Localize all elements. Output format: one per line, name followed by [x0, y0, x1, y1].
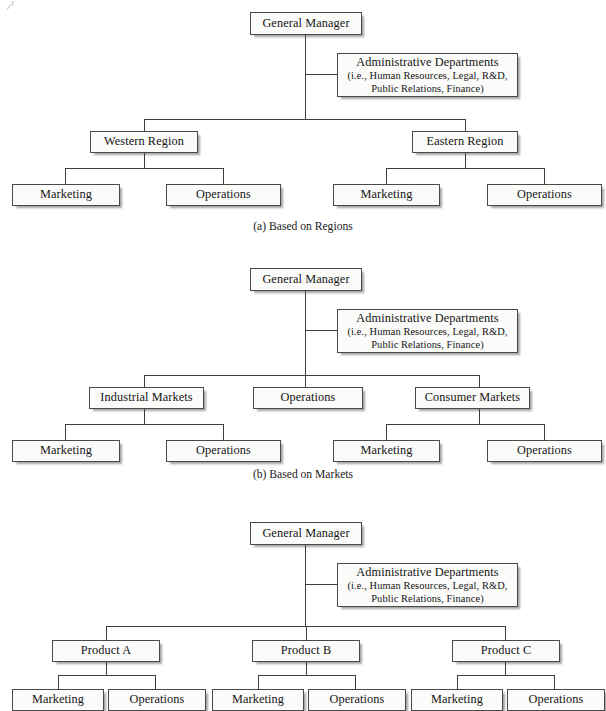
connector-product-b-operations: [355, 675, 356, 689]
node-operations-division[interactable]: Operations: [253, 387, 363, 409]
node-general-manager[interactable]: General Manager: [250, 12, 362, 35]
connector-product-a-marketing: [58, 675, 59, 689]
org-chart-markets: General Manager Administrative Departmen…: [0, 256, 606, 496]
node-consumer-markets[interactable]: Consumer Markets: [415, 387, 530, 409]
connector-root-trunk: [305, 35, 306, 119]
connector-product-b-marketing: [258, 675, 259, 689]
node-product-b[interactable]: Product B: [252, 640, 360, 662]
node-western-operations[interactable]: Operations: [166, 184, 281, 206]
node-consumer-marketing[interactable]: Marketing: [333, 440, 440, 462]
connector-consumer-bus: [386, 424, 545, 425]
node-eastern-region[interactable]: Eastern Region: [412, 131, 518, 153]
connector-product-a-operations: [155, 675, 156, 689]
connector-eastern-drop: [465, 153, 466, 168]
node-product-b-operations[interactable]: Operations: [308, 689, 406, 711]
connector-division-bus: [144, 119, 466, 120]
node-administrative-departments-b[interactable]: Administrative Departments (i.e., Human …: [337, 309, 518, 353]
connector-staff-stub-c: [305, 584, 337, 585]
connector-to-product-a: [106, 626, 107, 640]
node-western-marketing[interactable]: Marketing: [12, 184, 120, 206]
connector-industrial-bus: [65, 424, 224, 425]
node-product-a[interactable]: Product A: [52, 640, 160, 662]
node-general-manager-b[interactable]: General Manager: [250, 268, 362, 291]
connector-western-drop: [144, 153, 145, 168]
connector-consumer-operations: [544, 424, 545, 440]
connector-western-marketing: [65, 168, 66, 184]
connector-consumer-drop: [479, 409, 480, 424]
connector-to-industrial-markets: [144, 375, 145, 387]
org-chart-regions: General Manager Administrative Departmen…: [0, 0, 606, 246]
node-eastern-operations[interactable]: Operations: [487, 184, 602, 206]
node-administrative-departments-c[interactable]: Administrative Departments (i.e., Human …: [337, 563, 518, 607]
connector-eastern-operations: [544, 168, 545, 184]
connector-consumer-marketing: [386, 424, 387, 440]
node-industrial-marketing[interactable]: Marketing: [12, 440, 120, 462]
node-product-a-operations[interactable]: Operations: [108, 689, 206, 711]
admin-line-2: (i.e., Human Resources, Legal, R&D,: [348, 70, 508, 83]
org-chart-products: General Manager Administrative Departmen…: [0, 510, 606, 708]
node-administrative-departments[interactable]: Administrative Departments (i.e., Human …: [337, 53, 518, 97]
caption-chart-a: (a) Based on Regions: [0, 220, 606, 233]
connector-root-trunk-c: [305, 545, 306, 626]
admin-line-3: Public Relations, Finance): [371, 83, 484, 96]
node-eastern-marketing[interactable]: Marketing: [333, 184, 440, 206]
connector-industrial-drop: [144, 409, 145, 424]
connector-to-product-b: [306, 626, 307, 640]
connector-product-c-bus: [457, 675, 555, 676]
admin-line-2-c: (i.e., Human Resources, Legal, R&D,: [348, 580, 508, 593]
node-product-c-operations[interactable]: Operations: [507, 689, 605, 711]
node-industrial-operations[interactable]: Operations: [166, 440, 281, 462]
admin-line-2-b: (i.e., Human Resources, Legal, R&D,: [348, 326, 508, 339]
admin-title: Administrative Departments: [356, 55, 498, 70]
admin-line-3-c: Public Relations, Finance): [371, 593, 484, 606]
node-industrial-markets[interactable]: Industrial Markets: [89, 387, 204, 409]
connector-product-b-drop: [306, 662, 307, 675]
admin-title-b: Administrative Departments: [356, 311, 498, 326]
connector-division-bus-b: [144, 375, 480, 376]
admin-title-c: Administrative Departments: [356, 565, 498, 580]
connector-eastern-marketing: [386, 168, 387, 184]
connector-product-a-drop: [106, 662, 107, 675]
node-product-a-marketing[interactable]: Marketing: [12, 689, 104, 711]
node-consumer-operations[interactable]: Operations: [487, 440, 602, 462]
connector-staff-stub: [305, 74, 337, 75]
connector-western-operations: [223, 168, 224, 184]
connector-to-operations-div: [305, 375, 306, 387]
connector-to-eastern-region: [465, 119, 466, 131]
connector-eastern-bus: [386, 168, 545, 169]
node-product-c[interactable]: Product C: [452, 640, 560, 662]
connector-to-western-region: [144, 119, 145, 131]
connector-product-c-marketing: [457, 675, 458, 689]
node-product-b-marketing[interactable]: Marketing: [212, 689, 304, 711]
connector-product-c-drop: [505, 662, 506, 675]
connector-product-c-operations: [554, 675, 555, 689]
connector-root-trunk-b: [305, 291, 306, 375]
connector-industrial-marketing: [65, 424, 66, 440]
node-western-region[interactable]: Western Region: [90, 131, 198, 153]
node-product-c-marketing[interactable]: Marketing: [411, 689, 503, 711]
connector-to-consumer-markets: [479, 375, 480, 387]
node-general-manager-c[interactable]: General Manager: [250, 522, 362, 545]
caption-chart-b: (b) Based on Markets: [0, 468, 606, 481]
connector-product-b-bus: [258, 675, 356, 676]
admin-line-3-b: Public Relations, Finance): [371, 339, 484, 352]
connector-western-bus: [65, 168, 224, 169]
connector-to-product-c: [505, 626, 506, 640]
connector-industrial-operations: [223, 424, 224, 440]
connector-staff-stub-b: [305, 330, 337, 331]
connector-product-a-bus: [58, 675, 156, 676]
